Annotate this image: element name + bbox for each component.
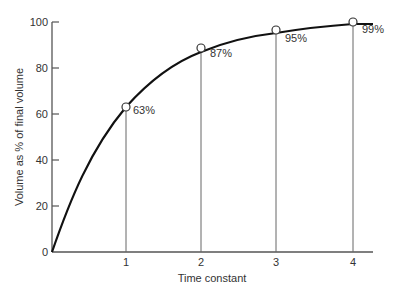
y-tick-label: 20 xyxy=(36,200,48,212)
chart: 100 80 60 40 20 0 1 2 3 4 63% 87% 95% 99… xyxy=(0,0,396,299)
y-tick-label: 40 xyxy=(36,154,48,166)
y-ticks xyxy=(52,22,59,206)
data-point xyxy=(197,44,205,52)
data-point xyxy=(272,26,280,34)
x-axis-title: Time constant xyxy=(178,272,247,284)
y-tick-label: 60 xyxy=(36,108,48,120)
x-tick-label: 3 xyxy=(273,256,279,268)
data-point xyxy=(122,103,130,111)
point-label: 63% xyxy=(133,104,155,116)
x-tick-label: 1 xyxy=(123,256,129,268)
y-axis-title: Volume as % of final volume xyxy=(13,68,25,206)
y-tick-label: 0 xyxy=(42,246,48,258)
point-label: 99% xyxy=(362,23,384,35)
y-tick-label: 80 xyxy=(36,62,48,74)
data-points xyxy=(122,18,357,111)
data-point xyxy=(349,18,357,26)
point-label: 95% xyxy=(285,32,307,44)
y-tick-label: 100 xyxy=(30,16,48,28)
x-tick-label: 2 xyxy=(198,256,204,268)
x-tick-label: 4 xyxy=(350,256,356,268)
point-label: 87% xyxy=(210,47,232,59)
x-tick-labels: 1 2 3 4 xyxy=(123,256,356,268)
y-tick-labels: 100 80 60 40 20 0 xyxy=(30,16,48,258)
drop-lines xyxy=(126,24,353,252)
